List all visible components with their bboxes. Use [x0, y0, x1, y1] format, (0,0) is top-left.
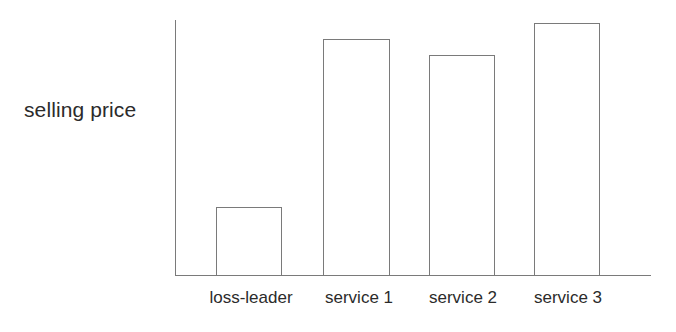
x-tick-label-loss-leader: loss-leader — [209, 288, 292, 308]
bar-loss-leader — [216, 207, 282, 276]
y-axis-label: selling price — [24, 98, 164, 122]
bar-service-3 — [534, 23, 600, 276]
bar-service-1 — [323, 39, 390, 276]
bar-chart-figure: selling price loss-leader service 1 serv… — [0, 0, 676, 332]
x-tick-label-service-1: service 1 — [325, 288, 393, 308]
x-tick-label-service-3: service 3 — [534, 288, 602, 308]
x-tick-label-service-2: service 2 — [429, 288, 497, 308]
x-axis-tick-labels: loss-leader service 1 service 2 service … — [0, 288, 676, 314]
bar-service-2 — [429, 55, 495, 276]
plot-area — [175, 20, 651, 276]
